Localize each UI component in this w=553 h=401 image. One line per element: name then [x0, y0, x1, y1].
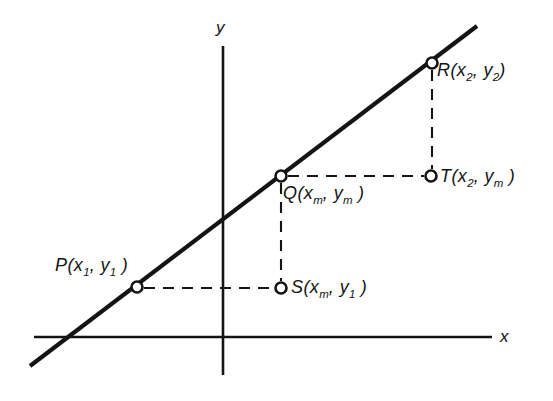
- point-label-P: P(x1, y1 ): [55, 255, 128, 278]
- point-label-T-y: y: [484, 166, 493, 186]
- point-label-P-x-subscript: 1: [83, 266, 89, 278]
- point-label-S: S(xm, y1 ): [291, 277, 367, 300]
- point-label-S-x-subscript: m: [319, 288, 329, 300]
- point-label-P-x: x: [74, 255, 83, 275]
- y-axis-label: y: [216, 18, 225, 38]
- point-label-P-y: y: [100, 255, 109, 275]
- point-label-S-x: x: [310, 277, 319, 297]
- point-label-R: R(x2, y2): [437, 60, 506, 83]
- point-marker-S: [276, 283, 287, 294]
- point-label-Q-y-subscript: m: [343, 194, 353, 206]
- point-label-T-y-subscript: m: [494, 177, 504, 189]
- point-label-Q-letter: Q: [283, 183, 297, 203]
- point-label-Q: Q(xm, ym ): [283, 183, 364, 206]
- point-label-P-y-subscript: 1: [110, 266, 116, 278]
- line-PR: [30, 26, 477, 366]
- point-label-R-y: y: [483, 60, 492, 80]
- point-label-T-x-subscript: 2: [467, 177, 473, 189]
- point-label-S-y-subscript: 1: [349, 288, 355, 300]
- point-label-Q-x: x: [304, 183, 313, 203]
- point-label-Q-x-subscript: m: [313, 194, 323, 206]
- point-label-R-x-subscript: 2: [466, 71, 472, 83]
- point-label-S-y: y: [340, 277, 349, 297]
- point-label-P-letter: P: [55, 255, 67, 275]
- point-label-R-x: x: [457, 60, 466, 80]
- point-marker-P: [132, 282, 143, 293]
- point-label-Q-y: y: [334, 183, 343, 203]
- point-marker-T: [426, 171, 437, 182]
- point-marker-Q: [276, 171, 287, 182]
- point-label-R-y-subscript: 2: [493, 71, 499, 83]
- point-label-R-letter: R: [437, 60, 450, 80]
- point-label-T-x: x: [458, 166, 467, 186]
- point-label-T-letter: T: [440, 166, 451, 186]
- point-marker-R: [427, 58, 438, 69]
- point-label-T: T(x2, ym ): [440, 166, 515, 189]
- point-label-S-letter: S: [291, 277, 303, 297]
- x-axis-label: x: [500, 327, 509, 347]
- figure-canvas: R(x2, y2) T(x2, ym ) Q(xm, ym ) P(x1, y1…: [0, 0, 553, 401]
